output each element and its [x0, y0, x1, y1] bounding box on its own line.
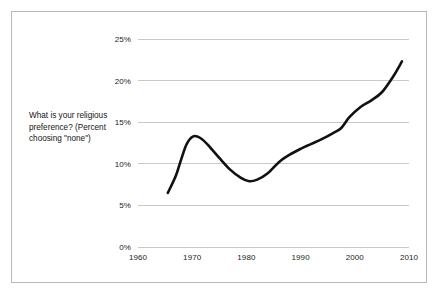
series-group	[168, 61, 402, 192]
line-chart-svg	[12, 12, 428, 284]
gridlines-group	[138, 39, 409, 247]
y-axis-tick-label: 10%	[115, 159, 131, 168]
chart-figure: What is your religious preference? (Perc…	[11, 11, 427, 283]
y-axis-tick-label: 25%	[115, 35, 131, 44]
data-line	[168, 61, 402, 192]
y-axis-tick-label: 5%	[119, 201, 131, 210]
x-axis-tick-label: 2000	[346, 253, 364, 262]
x-axis-tick-label: 1980	[237, 253, 255, 262]
y-axis-tick-label: 0%	[119, 243, 131, 252]
y-axis-tick-label: 20%	[115, 76, 131, 85]
plot-area: 0%5%10%15%20%25% 19601970198019902000201…	[12, 12, 426, 282]
x-axis-tick-label: 1970	[183, 253, 201, 262]
x-axis-tick-label: 1960	[129, 253, 147, 262]
x-axis-tick-label: 2010	[400, 253, 418, 262]
y-axis-tick-label: 15%	[115, 118, 131, 127]
x-axis-tick-label: 1990	[291, 253, 309, 262]
